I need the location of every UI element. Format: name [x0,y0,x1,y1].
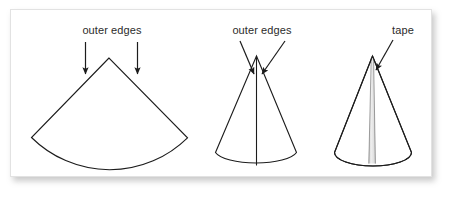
diagram-canvas: outer edges outer edges tape [0,0,449,200]
label-sector-outer-edges: outer edges [82,24,142,36]
sector-shape [32,58,188,170]
arrow-cone-right [262,41,285,74]
figure-rolled-cone: outer edges [216,24,297,166]
figure-flat-sector: outer edges [32,24,188,170]
arrow-cone-left [240,41,254,74]
label-tape: tape [392,24,414,36]
figure-taped-cone: tape [335,24,414,166]
label-cone-outer-edges: outer edges [232,24,292,36]
arrow-tape [376,40,393,70]
